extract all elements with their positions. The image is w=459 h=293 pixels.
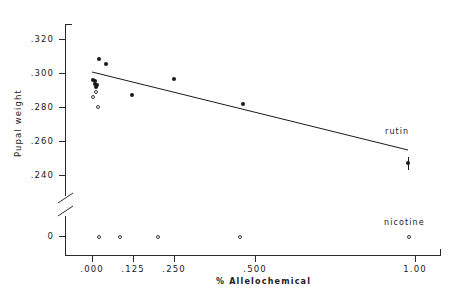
x-tick-label-250: .250 [149, 264, 199, 274]
y-tick-0 [59, 236, 65, 237]
nicotine-point [118, 235, 122, 239]
data-point-filled [97, 57, 101, 61]
y-tick-280 [59, 107, 65, 108]
x-tick-label-500: .500 [230, 264, 280, 274]
x-axis-spine [65, 255, 441, 256]
data-point-open [91, 95, 95, 99]
y-tick-label-240: .240 [16, 170, 54, 180]
nicotine-point [156, 235, 160, 239]
y-axis-top-cap [65, 24, 72, 25]
y-tick-label-300: .300 [16, 68, 54, 78]
axis-break-marks [0, 0, 459, 293]
x-axis-title: % Allelochemical [216, 277, 311, 286]
series-label-rutin: rutin [385, 127, 409, 136]
y-tick-300 [59, 73, 65, 74]
data-point-filled [104, 62, 108, 66]
error-bar [408, 157, 409, 170]
y-axis-spine-lower [65, 216, 66, 256]
x-tick-100 [415, 256, 416, 262]
scatter-plot-figure: .320 .300 .280 .260 .240 0 Pupal weight … [0, 0, 459, 293]
nicotine-point [97, 235, 101, 239]
y-axis-title: Pupal weight [13, 83, 23, 163]
y-axis-spine-upper [65, 24, 66, 196]
data-point-filled [172, 77, 176, 81]
data-point-open [96, 105, 100, 109]
data-point-filled [130, 93, 134, 97]
y-tick-240 [59, 175, 65, 176]
x-tick-500 [255, 256, 256, 262]
y-tick-320 [59, 39, 65, 40]
nicotine-point [238, 235, 242, 239]
data-point-filled [241, 102, 245, 106]
y-tick-label-0: 0 [16, 231, 54, 241]
x-tick-000 [92, 256, 93, 262]
x-tick-125 [133, 256, 134, 262]
x-tick-250 [174, 256, 175, 262]
regression-line [92, 72, 408, 150]
y-tick-260 [59, 141, 65, 142]
series-label-nicotine: nicotine [384, 218, 425, 227]
data-point-open [94, 90, 98, 94]
data-point-filled [94, 85, 98, 89]
x-axis-right-cap [440, 249, 441, 256]
nicotine-point [407, 235, 411, 239]
x-tick-label-100: 1.00 [390, 264, 440, 274]
y-tick-label-320: .320 [16, 34, 54, 44]
